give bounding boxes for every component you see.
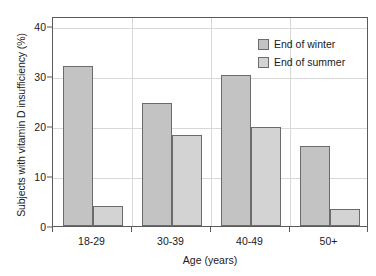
x-tick-label: 50+ [320,235,338,247]
x-tick-label: 40-49 [236,235,263,247]
x-tick-mark [131,227,132,232]
y-tick-label: 20 [34,122,46,132]
x-tick-label: 30-39 [157,235,184,247]
bar [221,75,251,226]
gridline-horizontal [53,128,367,129]
x-tick-label: 18-29 [78,235,105,247]
y-axis-ticks: 010203040 [20,0,52,276]
y-tick-label: 10 [34,172,46,182]
gridline-vertical [132,18,133,226]
bar [330,209,360,226]
legend-swatch-winter [258,39,269,50]
legend-label-winter: End of winter [274,39,335,50]
gridline-horizontal [53,78,367,79]
x-tick-mark [210,227,211,232]
gridline-horizontal [53,28,367,29]
x-tick-mark [367,227,368,232]
legend-item: End of summer [258,54,364,70]
x-tick-mark [289,227,290,232]
chart-figure: Subjects with vitamin D insufficiency (%… [0,0,376,276]
gridline-vertical [211,18,212,226]
bar [93,206,123,226]
legend-swatch-summer [258,57,269,68]
y-tick-label: 30 [34,72,46,82]
plot-area: End of winter End of summer [52,17,368,227]
y-tick-label: 40 [34,22,46,32]
bar [172,135,202,226]
bar [63,66,93,226]
bar [300,146,330,226]
bar [142,103,172,226]
x-tick-mark [52,227,53,232]
legend-item: End of winter [258,36,364,52]
x-axis-label: Age (years) [52,254,368,266]
legend-label-summer: End of summer [274,57,345,68]
bar [251,127,281,226]
x-axis-ticks: Age (years) 18-2930-3940-4950+ [52,227,368,276]
y-tick-label: 0 [40,222,46,232]
chart-legend: End of winter End of summer [258,36,364,72]
